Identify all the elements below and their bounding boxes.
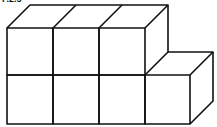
bottom-right-top-face	[168, 52, 213, 75]
cube-bottom-4-front	[145, 75, 190, 124]
cube-bottom-3-front	[99, 75, 145, 124]
cube-top-2-front	[53, 28, 99, 75]
cube-top-3-front	[99, 28, 145, 75]
cube-stack-diagram	[0, 0, 217, 127]
top-row-top-face	[7, 5, 168, 28]
cube-top-1-front	[7, 28, 53, 75]
cube-bottom-2-front	[53, 75, 99, 124]
cube-bottom-1-front	[7, 75, 53, 124]
